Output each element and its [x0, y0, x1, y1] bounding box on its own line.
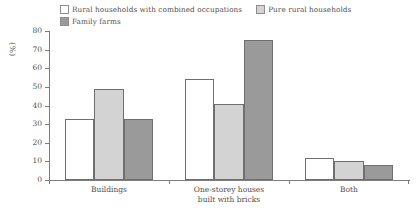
x-axis-category-label-line: Buildings: [49, 185, 169, 195]
legend-swatch-icon-family-farms: [60, 17, 69, 26]
chart-legend: Rural households with combined occupatio…: [60, 4, 405, 27]
y-axis-title: (%): [6, 32, 18, 66]
y-axis-tick-label: 40: [32, 101, 42, 110]
legend-label-rural-combined: Rural households with combined occupatio…: [72, 4, 242, 15]
x-axis-category-label-line: One-storey houses: [169, 185, 289, 195]
bar: [214, 104, 243, 180]
legend-row-1: Rural households with combined occupatio…: [60, 4, 405, 15]
legend-entry-pure-rural[interactable]: Pure rural households: [256, 4, 351, 15]
y-axis-tick: 50: [45, 87, 49, 88]
y-axis-tick: 60: [45, 68, 49, 69]
y-axis-tick: 40: [45, 106, 49, 107]
y-axis-tick-label: 30: [32, 119, 42, 128]
y-axis-tick: 70: [45, 50, 49, 51]
y-axis-tick-label: 80: [32, 26, 42, 35]
x-axis-tick: [169, 180, 170, 184]
x-axis-category-label: One-storey housesbuilt with bricks: [169, 185, 289, 204]
y-axis-tick-label: 20: [32, 138, 42, 147]
x-axis-category-label-line: built with bricks: [169, 195, 289, 205]
bar-chart: Rural households with combined occupatio…: [0, 0, 419, 214]
x-axis-tick: [408, 180, 409, 184]
plot-area: 80706050403020100: [49, 31, 409, 180]
bar: [94, 89, 123, 180]
x-axis-category-label-line: Both: [289, 185, 409, 195]
bar: [334, 161, 363, 180]
y-axis-tick-label: 50: [32, 82, 42, 91]
legend-swatch-icon-pure-rural: [256, 5, 265, 14]
legend-entry-family-farms[interactable]: Family farms: [60, 16, 121, 27]
legend-row-2: Family farms: [60, 16, 405, 27]
legend-label-family-farms: Family farms: [72, 16, 121, 27]
bar: [65, 119, 94, 180]
y-axis-tick-label: 60: [32, 63, 42, 72]
y-axis-tick: 80: [45, 31, 49, 32]
x-axis-tick: [289, 180, 290, 184]
bar: [364, 165, 393, 180]
bar: [185, 79, 214, 180]
y-axis-tick-label: 70: [32, 45, 42, 54]
y-axis-tick-label: 10: [32, 156, 42, 165]
y-axis-tick: 30: [45, 124, 49, 125]
y-axis-tick: 10: [45, 161, 49, 162]
y-axis-title-text: (%): [8, 42, 17, 56]
bar: [244, 40, 273, 180]
x-axis-line: [49, 180, 410, 181]
x-axis-category-label: Buildings: [49, 185, 169, 195]
legend-label-pure-rural: Pure rural households: [268, 4, 351, 15]
legend-entry-rural-combined[interactable]: Rural households with combined occupatio…: [60, 4, 242, 15]
y-axis-tick-label: 0: [37, 175, 42, 184]
bar: [305, 158, 334, 180]
x-axis-category-label: Both: [289, 185, 409, 195]
y-axis-tick: 20: [45, 143, 49, 144]
bar: [124, 119, 153, 180]
x-axis-tick: [49, 180, 50, 184]
legend-swatch-icon-rural-combined: [60, 5, 69, 14]
